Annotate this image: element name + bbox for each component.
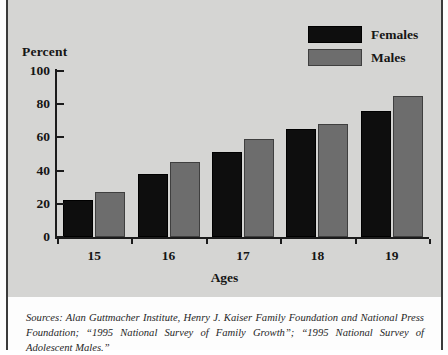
y-axis-tick-label: 60 xyxy=(10,130,50,144)
y-axis-tick-mark xyxy=(57,70,64,72)
y-axis-tick-labels: 020406080100 xyxy=(8,0,50,297)
legend-item-males: Males xyxy=(308,49,418,66)
y-axis-tick-label: 40 xyxy=(10,164,50,178)
bar-females-age-16 xyxy=(138,174,168,237)
x-axis-tick-label-17: 17 xyxy=(213,248,273,264)
y-axis-tick-label: 0 xyxy=(10,230,50,244)
frame-border-right xyxy=(441,0,443,350)
bar-females-age-15 xyxy=(63,200,93,237)
legend-label-males: Males xyxy=(371,50,406,66)
y-axis-tick-mark xyxy=(57,236,64,238)
x-axis-tick-mark xyxy=(355,239,357,244)
legend-item-females: Females xyxy=(308,26,418,43)
x-axis-tick-label-18: 18 xyxy=(287,248,347,264)
bar-group xyxy=(280,71,354,237)
x-axis-line xyxy=(55,237,429,239)
bar-females-age-17 xyxy=(212,152,242,237)
y-axis-tick-mark xyxy=(57,136,64,138)
x-axis-tick-mark xyxy=(429,239,431,244)
y-axis-tick-label: 100 xyxy=(10,64,50,78)
source-note: Sources: Alan Guttmacher Institute, Henr… xyxy=(26,310,424,355)
legend-swatch-males xyxy=(308,49,362,66)
y-axis-tick-mark xyxy=(57,203,64,205)
x-axis-tick-label-15: 15 xyxy=(64,248,124,264)
x-axis-tick-mark xyxy=(57,239,59,244)
chart-panel: Percent 020406080100 Ages Females Males … xyxy=(8,0,441,297)
bar-group xyxy=(206,71,280,237)
bar-females-age-19 xyxy=(361,111,391,237)
x-axis-tick-mark xyxy=(206,239,208,244)
y-axis-tick-mark xyxy=(57,170,64,172)
y-axis-tick-label: 80 xyxy=(10,97,50,111)
bar-males-age-16 xyxy=(170,162,200,237)
bar-females-age-18 xyxy=(286,129,316,237)
x-axis-tick-label-16: 16 xyxy=(139,248,199,264)
x-axis-tick-mark xyxy=(131,239,133,244)
bar-males-age-17 xyxy=(244,139,274,237)
x-axis-tick-mark xyxy=(280,239,282,244)
y-axis-tick-label: 20 xyxy=(10,197,50,211)
bar-group xyxy=(131,71,205,237)
bar-group xyxy=(57,71,131,237)
legend-label-females: Females xyxy=(371,27,418,43)
bar-males-age-19 xyxy=(393,96,423,237)
y-axis-tick-mark xyxy=(57,103,64,105)
legend: Females Males xyxy=(308,26,418,72)
legend-swatch-females xyxy=(308,26,362,43)
bar-males-age-18 xyxy=(318,124,348,237)
x-axis-tick-label-19: 19 xyxy=(362,248,422,264)
bar-males-age-15 xyxy=(95,192,125,237)
x-axis-title: Ages xyxy=(8,270,441,286)
plot-area xyxy=(57,71,429,237)
bar-group xyxy=(355,71,429,237)
